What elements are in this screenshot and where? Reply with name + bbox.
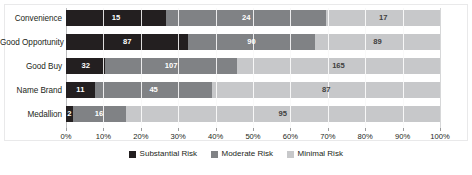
axis-tick-label: 0% [61,132,72,141]
axis-tick-label: 10% [96,132,111,141]
bar-segment-value: 2 [67,110,71,118]
gridline-overlay [403,8,404,128]
axis-tick-label: 100% [430,132,449,141]
legend-label: Minimal Risk [298,150,343,158]
axis-tick-label: 30% [171,132,186,141]
bar-segment: 2 [66,106,73,122]
bar-segment-value: 32 [81,62,89,70]
category-axis: ConvenienceGood OpportunityGood BuyName … [0,8,62,128]
bar-segment-value: 165 [332,62,345,70]
bar-segment-value: 16 [95,110,103,118]
axis-tick-label: 90% [395,132,410,141]
axis-tick-mark [328,128,329,131]
plot-area: 1524178790893210716511458721695 [66,8,440,128]
bar-segment: 95 [126,106,440,122]
category-label: Good Opportunity [0,38,62,48]
axis-tick-label: 70% [320,132,335,141]
legend-label: Moderate Risk [221,150,273,158]
bar-segment-value: 11 [76,86,84,94]
bar-segment-value: 45 [149,86,157,94]
axis-tick-label: 40% [208,132,223,141]
bar-segment: 165 [237,58,440,74]
axis-tick-label: 80% [358,132,373,141]
bar-segment: 90 [188,34,315,50]
bar-segment: 107 [105,58,237,74]
bar-segment-value: 107 [165,62,178,70]
axis-tick-label: 60% [283,132,298,141]
bar-segment: 32 [66,58,105,74]
axis-tick-mark [216,128,217,131]
axis-tick-mark [141,128,142,131]
value-axis: 0%10%20%30%40%50%60%70%80%90%100% [66,128,440,142]
bar-segment: 15 [66,10,166,26]
bar-segment: 89 [315,34,440,50]
bar-segment: 87 [212,82,440,98]
category-label: Medallion [0,110,62,120]
axis-tick-mark [440,128,441,131]
gridline-overlay [103,8,104,128]
legend-item[interactable]: Minimal Risk [287,150,343,158]
stacked-bar-chart: ConvenienceGood OpportunityGood BuyName … [0,0,472,175]
category-label: Name Brand [0,86,62,96]
bar-segment: 16 [73,106,126,122]
gridline-overlay [216,8,217,128]
bar-segment-value: 17 [379,14,387,22]
gridline-overlay [290,8,291,128]
bar-segment: 45 [95,82,213,98]
bar-segment-value: 15 [112,14,120,22]
chart-legend: Substantial RiskModerate RiskMinimal Ris… [0,150,472,158]
bar-segment-value: 89 [373,38,381,46]
bar-segment: 24 [166,10,326,26]
gridline-overlay [141,8,142,128]
axis-tick-label: 20% [133,132,148,141]
axis-tick-mark [365,128,366,131]
legend-swatch-icon [287,151,294,158]
axis-tick-mark [178,128,179,131]
gridline-overlay [328,8,329,128]
gridline-overlay [365,8,366,128]
bar-segment-value: 95 [279,110,287,118]
bar-segment-value: 90 [247,38,255,46]
gridline-overlay [178,8,179,128]
bar-segment: 87 [66,34,188,50]
axis-tick-mark [290,128,291,131]
bar-segment: 11 [66,82,95,98]
legend-swatch-icon [211,151,218,158]
axis-tick-label: 50% [245,132,260,141]
legend-label: Substantial Risk [140,150,197,158]
axis-tick-mark [253,128,254,131]
bar-segment-value: 87 [322,86,330,94]
category-label: Good Buy [0,62,62,72]
legend-swatch-icon [129,151,136,158]
axis-tick-mark [403,128,404,131]
axis-tick-mark [103,128,104,131]
gridline [440,8,441,128]
bar-segment: 17 [326,10,440,26]
gridline-overlay [253,8,254,128]
bar-segment-value: 87 [123,38,131,46]
legend-item[interactable]: Moderate Risk [211,150,273,158]
category-label: Convenience [0,14,62,24]
axis-tick-mark [66,128,67,131]
bar-segment-value: 24 [242,14,250,22]
legend-item[interactable]: Substantial Risk [129,150,197,158]
